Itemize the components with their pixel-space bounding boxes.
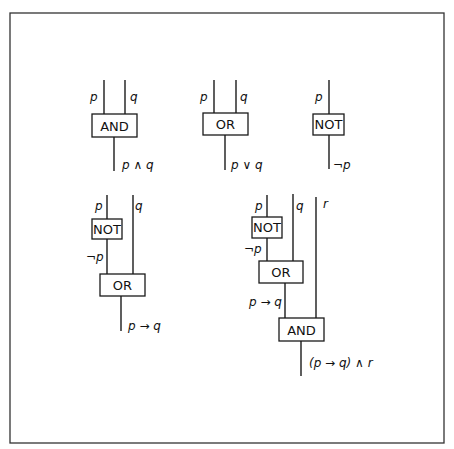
output-label: p ∧ q (121, 158, 154, 172)
input-label-p: p (254, 199, 263, 213)
implication-circuit: NOT OR p q ¬p p → q (86, 195, 161, 333)
input-label-q: q (130, 90, 138, 104)
or-gate-label: OR (113, 278, 132, 293)
not-gate-circuit: NOT p ¬p (313, 80, 351, 172)
input-label-p: p (199, 90, 208, 104)
and-gate-label: AND (287, 323, 316, 338)
diagram-frame (10, 13, 444, 443)
and-gate-label: AND (100, 119, 129, 134)
logic-diagram: AND p q p ∧ q OR p q p ∨ q NOT p ¬p NOT … (0, 0, 454, 449)
input-label-q: q (135, 199, 143, 213)
not-output-label: ¬p (244, 242, 262, 256)
output-label: ¬p (333, 158, 351, 172)
and-gate-circuit: AND p q p ∧ q (89, 80, 154, 172)
output-label: (p → q) ∧ r (309, 356, 374, 370)
input-label-p: p (94, 199, 103, 213)
or-gate-label: OR (271, 265, 290, 280)
input-label-p: p (89, 90, 98, 104)
or-gate-circuit: OR p q p ∨ q (199, 80, 263, 172)
input-label-q: q (296, 199, 304, 213)
input-label-q: q (240, 90, 248, 104)
not-gate-label: NOT (93, 222, 121, 237)
not-gate-label: NOT (315, 117, 343, 132)
or-output-label: p → q (248, 295, 282, 309)
input-label-r: r (323, 197, 329, 211)
or-gate-label: OR (216, 117, 235, 132)
output-label: p → q (127, 319, 161, 333)
input-label-p: p (314, 90, 323, 104)
not-gate-label: NOT (253, 220, 281, 235)
intermediate-label: ¬p (86, 250, 104, 264)
output-label: p ∨ q (230, 158, 263, 172)
compound-circuit: NOT OR AND p q r ¬p p → q (p → q) ∧ r (244, 194, 374, 376)
